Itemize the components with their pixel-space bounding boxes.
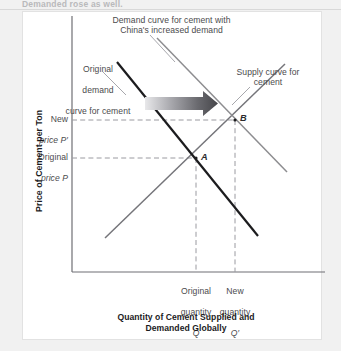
leader-line-shifted-demand [150,35,175,62]
leader-line-supply [232,87,250,105]
annotation-supply: Supply curve for cement [222,67,314,88]
annotation-original-demand-line2: demand [82,85,113,95]
annotation-shifted-demand: Demand curve for cement with China's inc… [84,15,259,36]
point-b-marker [233,118,236,121]
annotation-original-demand-line1: Original [83,64,113,74]
point-a-label: A [201,152,208,162]
label-new-price-line1: New [51,114,68,124]
x-axis-title: Quantity of Cement Supplied and Demanded… [96,312,276,334]
figure-page: Demanded rose as well. [0,0,341,351]
label-new-quantity-line1: New [226,286,243,296]
y-axis-title: Price of Cement per Ton [34,110,44,212]
annotation-original-demand-line3: curve for cement [66,106,131,116]
point-b-label: B [240,113,247,123]
point-a-marker [194,156,197,159]
demand-shift-arrow [145,91,218,116]
label-original-price-line2: price P [41,173,68,183]
